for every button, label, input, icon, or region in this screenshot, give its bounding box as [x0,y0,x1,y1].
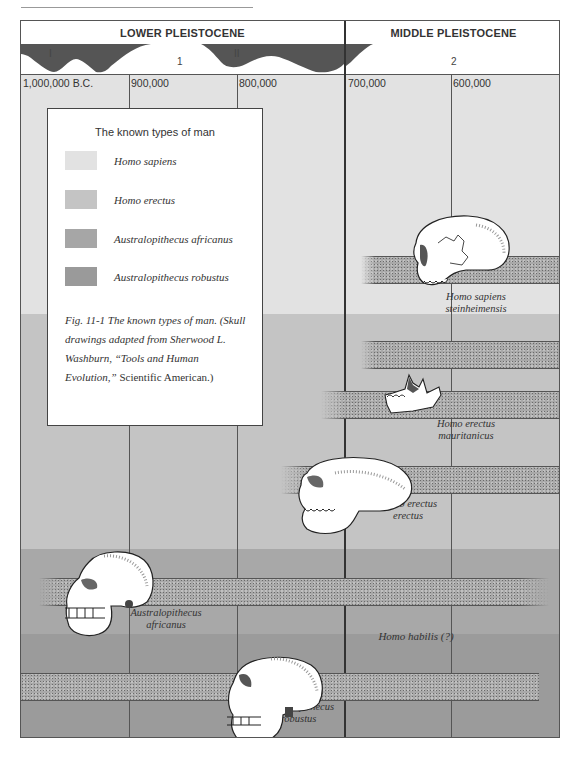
glacial-wave-icon [21,44,560,74]
legend-swatch [65,151,97,170]
jaw-homo-erectus-mauritanicus-icon [383,373,448,415]
figure-caption: Fig. 11-1 The known types of man. (Skull… [65,311,250,387]
skull-homo-erectus-erectus-icon [295,453,420,538]
epoch-lower-pleistocene: LOWER PLEISTOCENE [21,21,344,45]
top-rule [21,7,253,8]
tick-1000000: 1,000,000 B.C. [23,77,93,89]
legend-item-australopithecus-robustus: Australopithecus robustus [65,267,234,286]
legend-label: Homo sapiens [114,155,234,167]
tick-800000: 800,000 [239,77,277,89]
legend-item-homo-sapiens: Homo sapiens [65,151,234,170]
legend-box: The known types of man Homo sapiens Homo… [47,108,263,426]
species-label-homo-habilis: Homo habilis (?) [356,630,476,642]
gridline-700000 [344,21,346,738]
skull-homo-sapiens-steinheimensis-icon [406,213,516,291]
tick-700000: 700,000 [348,77,386,89]
interglacial-label-1: 1 [177,56,183,67]
species-label-sapiens-steinheimensis: Homo sapiens steinheimensis [421,291,531,315]
legend-swatch [65,267,97,286]
epoch-middle-pleistocene: MIDDLE PLEISTOCENE [346,21,560,45]
glacial-label-II: II [234,48,240,59]
epoch-label: LOWER PLEISTOCENE [120,27,245,39]
legend-item-homo-erectus: Homo erectus [65,190,234,209]
tick-600000: 600,000 [453,77,491,89]
range-band-erectus-upper [361,341,560,369]
skull-australopithecus-africanus-icon [59,546,159,638]
species-label-erectus-mauritanicus: Homo erectus mauritanicus [411,418,521,442]
caption-roman: Scientific American.) [119,371,213,383]
glacial-label-I: I [49,48,52,59]
glacial-strip: I 1 II 2 [21,44,560,75]
legend-label: Australopithecus africanus [114,233,234,245]
legend-item-australopithecus-africanus: Australopithecus africanus [65,229,234,248]
interglacial-label-2: 2 [451,56,457,67]
legend-swatch [65,190,97,209]
legend-label: Australopithecus robustus [114,271,234,283]
epoch-label: MIDDLE PLEISTOCENE [390,27,516,39]
legend-label: Homo erectus [114,194,234,206]
legend-title: The known types of man [48,126,262,138]
legend-swatch [65,229,97,248]
skull-australopithecus-robustus-icon [221,651,331,738]
tick-900000: 900,000 [131,77,169,89]
